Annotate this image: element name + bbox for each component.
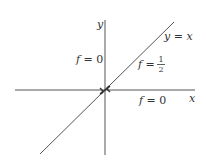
region-label-eq: = <box>143 94 159 107</box>
diagram-canvas: y x y = x f = 0 f = 1 2 f = 0 <box>0 0 206 162</box>
fraction-numerator: 1 <box>158 55 163 64</box>
region-label-value: 0 <box>159 94 166 107</box>
region-label-value: 0 <box>96 53 103 66</box>
region-label-lower-right: f = 0 <box>138 94 166 107</box>
fraction-denominator: 2 <box>158 65 163 74</box>
line-label-rhs: x <box>186 30 193 43</box>
svg-text:f =: f = <box>137 58 155 71</box>
region-label-eq: = <box>142 58 155 71</box>
region-label-eq: = <box>80 53 96 66</box>
diagram-figure: y x y = x f = 0 f = 1 2 f = 0 <box>0 0 206 162</box>
svg-text:y = x: y = x <box>163 30 193 43</box>
y-axis-label: y <box>96 18 104 31</box>
x-axis-label: x <box>189 92 196 105</box>
svg-text:f = 0: f = 0 <box>138 94 166 107</box>
line-label-y-equals-x: y = x <box>163 30 193 43</box>
line-label-eq: = <box>170 30 186 43</box>
svg-text:f = 0: f = 0 <box>75 53 103 66</box>
region-label-upper-left: f = 0 <box>75 53 103 66</box>
region-label-on-diagonal: f = 1 2 <box>137 55 165 74</box>
